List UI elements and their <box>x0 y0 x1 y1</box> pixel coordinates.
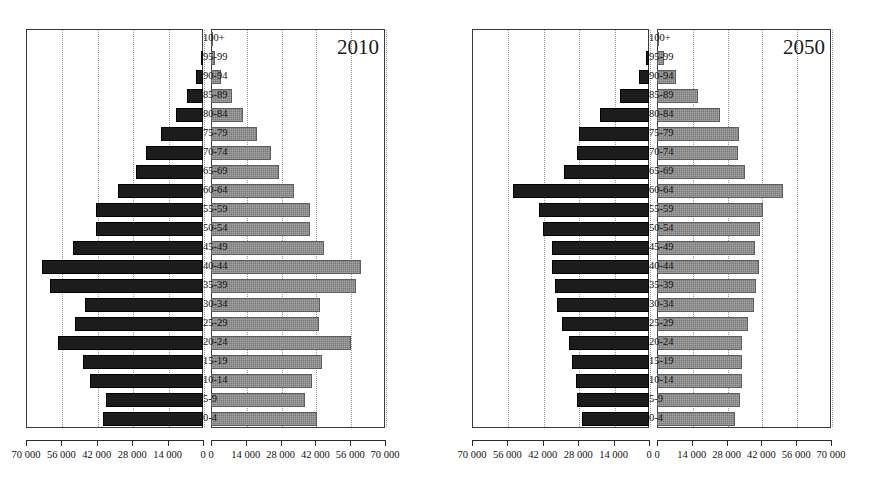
bar-male <box>600 108 649 122</box>
bar-male <box>557 298 649 312</box>
age-group-label: 90-94 <box>203 71 211 82</box>
bar-male <box>582 412 649 426</box>
x-tick-label: 14 000 <box>153 449 182 460</box>
age-group-label: 75-79 <box>203 128 211 139</box>
tick-mark <box>649 440 650 446</box>
age-group-label: 55-59 <box>649 204 657 215</box>
bar-male <box>83 355 203 369</box>
x-tick-label: 42 000 <box>528 449 557 460</box>
age-group-label: 70-74 <box>649 147 657 158</box>
bar-female <box>211 393 305 407</box>
tick-mark <box>203 440 204 446</box>
age-group-label: 5-9 <box>649 394 657 405</box>
age-group-label: 15-19 <box>649 356 657 367</box>
gridline <box>386 30 388 427</box>
age-group-label: 40-44 <box>649 261 657 272</box>
age-group-label: 40-44 <box>203 261 211 272</box>
age-group-label: 60-64 <box>203 185 211 196</box>
x-tick-label: 28 000 <box>712 449 741 460</box>
x-tick-label: 42 000 <box>82 449 111 460</box>
x-tick-label: 56 000 <box>336 449 365 460</box>
bar-male <box>552 260 649 274</box>
pyramid-panel-2010: 100+95-9990-9485-8980-8475-7970-7465-696… <box>0 0 446 479</box>
tick-mark <box>315 440 316 446</box>
age-group-label: 100+ <box>203 33 211 44</box>
bar-male <box>96 222 203 236</box>
age-group-label: 80-84 <box>649 109 657 120</box>
age-group-label: 45-49 <box>203 242 211 253</box>
bar-male <box>577 146 649 160</box>
tick-mark <box>831 440 832 446</box>
x-tick-label: 42 000 <box>301 449 330 460</box>
age-group-label: 10-14 <box>649 375 657 386</box>
bar-male <box>539 203 649 217</box>
bar-male <box>513 184 649 198</box>
x-tick-label: 28 000 <box>564 449 593 460</box>
age-group-label: 60-64 <box>649 185 657 196</box>
age-group-axis: 100+95-9990-9485-8980-8475-7970-7465-696… <box>649 29 657 428</box>
age-group-label: 90-94 <box>649 71 657 82</box>
year-annotation: 2050 <box>771 37 825 58</box>
bar-male <box>96 203 203 217</box>
tick-mark <box>281 440 282 446</box>
tick-mark <box>246 440 247 446</box>
age-group-label: 55-59 <box>203 204 211 215</box>
bar-male <box>579 127 649 141</box>
panel-2010-body: 100+95-9990-9485-8980-8475-7970-7465-696… <box>0 0 446 479</box>
gridline <box>351 30 353 427</box>
x-tick-label: 70 000 <box>371 449 400 460</box>
bar-female <box>211 260 361 274</box>
bar-female <box>211 412 317 426</box>
age-group-label: 65-69 <box>649 166 657 177</box>
tick-mark <box>614 440 615 446</box>
tick-mark <box>692 440 693 446</box>
age-group-label: 100+ <box>649 33 657 44</box>
x-tick-label: 0 <box>208 449 213 460</box>
bar-male <box>564 165 649 179</box>
age-group-label: 0-4 <box>649 413 657 424</box>
x-tick-label: 14 000 <box>231 449 260 460</box>
age-group-label: 25-29 <box>649 318 657 329</box>
bar-male <box>577 393 649 407</box>
bar-male <box>106 393 203 407</box>
bar-male <box>42 260 203 274</box>
year-annotation: 2010 <box>325 37 379 58</box>
population-pyramid-figure: 100+95-9990-9485-8980-8475-7970-7465-696… <box>0 0 893 479</box>
x-tick-label: 28 000 <box>266 449 295 460</box>
tick-mark <box>507 440 508 446</box>
bar-male <box>569 336 649 350</box>
bar-male <box>576 374 649 388</box>
bar-male <box>103 412 203 426</box>
gridline <box>62 30 64 427</box>
tick-mark <box>727 440 728 446</box>
bar-male <box>176 108 203 122</box>
age-group-label: 65-69 <box>203 166 211 177</box>
bar-male <box>50 279 203 293</box>
age-group-label: 5-9 <box>203 394 211 405</box>
bar-male <box>620 89 649 103</box>
age-group-label: 25-29 <box>203 318 211 329</box>
bar-male <box>136 165 203 179</box>
tick-mark <box>350 440 351 446</box>
gridline <box>797 30 799 427</box>
bar-male <box>639 70 649 84</box>
tick-mark <box>385 440 386 446</box>
bar-male <box>552 241 649 255</box>
bar-male <box>118 184 203 198</box>
tick-mark <box>578 440 579 446</box>
bar-female <box>657 412 735 426</box>
bar-male <box>85 298 203 312</box>
tick-mark <box>761 440 762 446</box>
x-tick-label: 56 000 <box>47 449 76 460</box>
age-group-label: 20-24 <box>203 337 211 348</box>
tick-mark <box>211 440 212 446</box>
age-group-label: 85-89 <box>649 90 657 101</box>
age-group-label: 50-54 <box>203 223 211 234</box>
age-group-axis: 100+95-9990-9485-8980-8475-7970-7465-696… <box>203 29 211 428</box>
bar-female <box>211 355 322 369</box>
bar-female <box>657 184 783 198</box>
bar-male <box>555 279 649 293</box>
right-axis-line <box>211 440 385 441</box>
bar-male <box>161 127 203 141</box>
tick-mark <box>26 440 27 446</box>
